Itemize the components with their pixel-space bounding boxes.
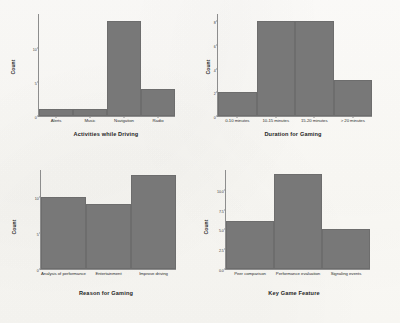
y-axis-tick-label: 7.5: [219, 210, 226, 214]
x-axis-tick-label: > 20 minutes: [334, 118, 373, 123]
bar-series-reason: [41, 170, 176, 269]
bar-series-duration: [218, 14, 372, 116]
y-axis-tick-mark: [216, 116, 218, 117]
x-axis-ticklabels-keyfeature: Peer comparisonPerformance evaluationSig…: [226, 271, 370, 276]
y-axis-tick-mark: [224, 189, 226, 190]
bar: [141, 89, 175, 116]
y-axis-tick-mark: [37, 81, 39, 82]
y-axis-tick-label: 2.5: [219, 249, 226, 253]
y-axis-tick-mark: [216, 68, 218, 69]
plot-area-activities: 0510 AlertsMusicNavigationRadio: [38, 14, 175, 117]
y-axis-label: Count: [11, 207, 17, 247]
y-axis-tick-mark: [39, 268, 41, 269]
x-axis-tick-label: Signaling events: [322, 271, 370, 276]
y-axis-tick-label: 4: [214, 69, 218, 73]
plot-area-duration: 02468 0-10 minutes10-15 minutes15-20 min…: [217, 14, 372, 117]
chart-panel-key-game-feature: Count 0.02.55.07.510.0 Peer comparisonPe…: [200, 162, 400, 323]
x-axis-tick-label: 10-15 minutes: [257, 118, 296, 123]
bar-series-keyfeature: [226, 170, 370, 269]
y-axis-tick-label: 10.0: [217, 190, 226, 194]
bar: [107, 21, 141, 116]
y-axis-tick-mark: [37, 47, 39, 48]
y-axis-tick-mark: [39, 196, 41, 197]
x-axis-tick-label: Peer comparison: [226, 271, 274, 276]
x-axis-tick-label: Music: [73, 118, 107, 123]
x-axis-tick-label: Alerts: [39, 118, 73, 123]
x-axis-ticklabels-activities: AlertsMusicNavigationRadio: [39, 118, 175, 123]
y-axis-tick-mark: [216, 44, 218, 45]
y-axis-tick-mark: [37, 116, 39, 117]
y-axis-tick-label: 5: [37, 233, 41, 237]
bar: [334, 80, 373, 116]
plot-area-reason: 0510 Analysis of performanceEntertainmen…: [40, 170, 176, 270]
bar: [257, 21, 296, 116]
bar: [218, 92, 257, 116]
x-axis-tick-label: Performance evaluation: [274, 271, 322, 276]
bar: [322, 229, 370, 268]
x-axis-tick-label: 0-10 minutes: [218, 118, 257, 123]
x-axis-label: Duration for Gaming: [200, 131, 386, 137]
x-axis-ticklabels-reason: Analysis of performanceEntertainmentImpr…: [41, 271, 176, 276]
bar: [226, 221, 274, 268]
x-axis-tick-label: Entertainment: [86, 271, 131, 276]
x-axis-tick-label: Improve driving: [131, 271, 176, 276]
y-axis-tick-mark: [216, 21, 218, 22]
y-axis-tick-mark: [39, 232, 41, 233]
bar: [295, 21, 334, 116]
y-axis-tick-label: 5.0: [219, 229, 226, 233]
x-axis-label: Key Game Feature: [200, 290, 388, 296]
chart-panel-activities-while-driving: Count 0510 AlertsMusicNavigationRadio Ac…: [0, 0, 200, 162]
chart-grid: Count 0510 AlertsMusicNavigationRadio Ac…: [0, 0, 400, 323]
y-axis-tick-mark: [224, 229, 226, 230]
y-axis-label: Count: [10, 47, 16, 87]
bar: [86, 204, 131, 269]
bar: [41, 197, 86, 269]
y-axis-tick-label: 6: [214, 45, 218, 49]
bar-series-activities: [39, 14, 175, 116]
y-axis-label: Count: [203, 207, 209, 247]
y-axis-tick-mark: [224, 209, 226, 210]
plot-area-keyfeature: 0.02.55.07.510.0 Peer comparisonPerforma…: [225, 170, 370, 270]
x-axis-tick-label: Radio: [141, 118, 175, 123]
y-axis-tick-label: 8: [214, 21, 218, 25]
x-axis-tick-label: Analysis of performance: [41, 271, 86, 276]
y-axis-tick-label: 2: [214, 92, 218, 96]
chart-panel-duration-for-gaming: Count 02468 0-10 minutes10-15 minutes15-…: [200, 0, 400, 162]
y-axis-label: Count: [205, 47, 211, 87]
y-axis-tick-label: 5: [35, 82, 39, 86]
y-axis-tick-mark: [224, 268, 226, 269]
y-axis-tick-label: 10: [33, 48, 39, 52]
y-axis-tick-mark: [216, 92, 218, 93]
y-axis-tick-label: 10: [35, 197, 41, 201]
y-axis-tick-mark: [224, 248, 226, 249]
bar: [274, 174, 322, 268]
x-axis-label: Reason for Gaming: [18, 290, 194, 296]
x-axis-tick-label: 15-20 minutes: [295, 118, 334, 123]
bar: [73, 109, 107, 116]
y-axis-tick-label: 0.0: [219, 269, 226, 273]
x-axis-ticklabels-duration: 0-10 minutes10-15 minutes15-20 minutes> …: [218, 118, 372, 123]
chart-panel-reason-for-gaming: Count 0510 Analysis of performanceEntert…: [0, 162, 200, 323]
bar: [39, 109, 73, 116]
x-axis-tick-label: Navigation: [107, 118, 141, 123]
bar: [131, 175, 176, 268]
x-axis-label: Activities while Driving: [20, 131, 192, 137]
